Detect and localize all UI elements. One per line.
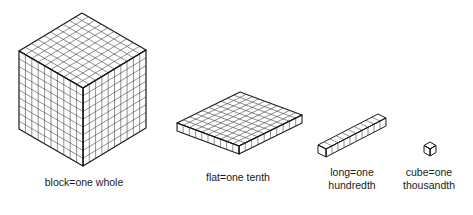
flat-model [177,92,302,154]
block-model [19,13,146,166]
block-label: block=one whole [28,176,140,189]
cube-label-line-2: thousandth [393,179,465,192]
block-label-line: block=one whole [28,176,140,189]
long-label-line-2: hundredth [316,179,388,192]
flat-label-line: flat=one tenth [188,171,288,184]
long-label-line-1: long=one [316,166,388,179]
cube-label-line-1: cube=one [393,166,465,179]
edge-line [326,118,386,149]
cube-model [424,142,436,156]
cube-label: cube=one thousandth [393,166,465,192]
long-label: long=one hundredth [316,166,388,192]
long-model [318,114,386,157]
flat-label: flat=one tenth [188,171,288,184]
